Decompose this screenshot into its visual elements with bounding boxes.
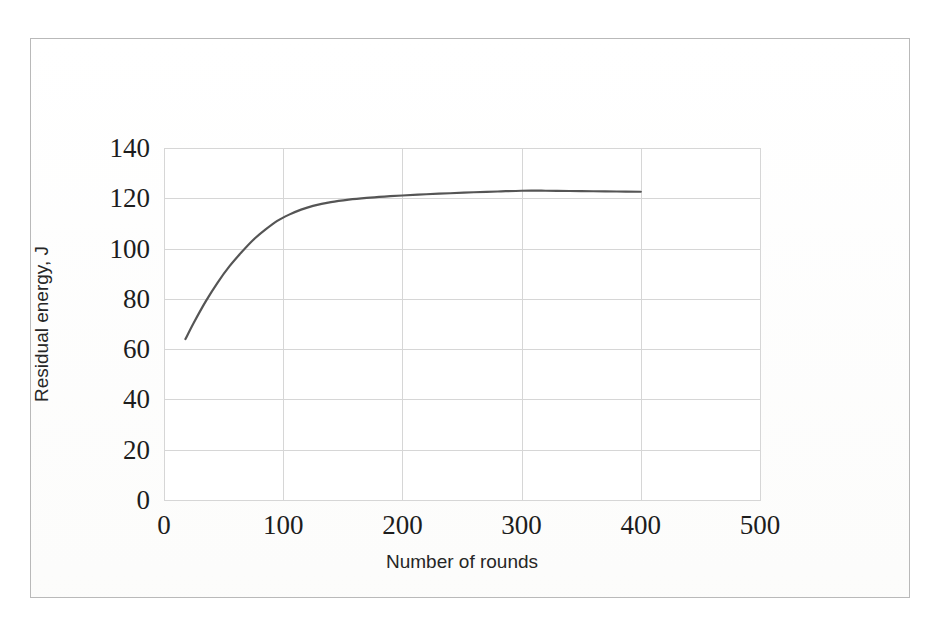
y-tick-label: 100 [75, 235, 150, 262]
y-tick-label: 40 [75, 386, 150, 413]
x-tick-label: 400 [621, 512, 662, 539]
gridline-vertical [760, 148, 761, 501]
y-tick-label: 80 [75, 285, 150, 312]
y-axis-title: Residual energy, J [31, 246, 53, 402]
series-layer [164, 148, 760, 500]
x-axis-tick-labels: 0100200300400500 [0, 512, 935, 552]
x-tick-label: 500 [740, 512, 781, 539]
x-tick-label: 200 [382, 512, 423, 539]
x-tick-label: 0 [157, 512, 171, 539]
x-tick-label: 300 [501, 512, 542, 539]
y-tick-label: 120 [75, 185, 150, 212]
x-tick-label: 100 [263, 512, 304, 539]
y-tick-label: 0 [75, 487, 150, 514]
y-tick-label: 140 [75, 135, 150, 162]
x-axis-title: Number of rounds [386, 551, 538, 573]
y-tick-label: 60 [75, 336, 150, 363]
residual-energy-line-chart: 020406080100120140 0100200300400500 Resi… [0, 0, 935, 632]
y-tick-label: 20 [75, 436, 150, 463]
series-line-residual-energy [185, 191, 640, 339]
gridline-horizontal [164, 500, 761, 501]
